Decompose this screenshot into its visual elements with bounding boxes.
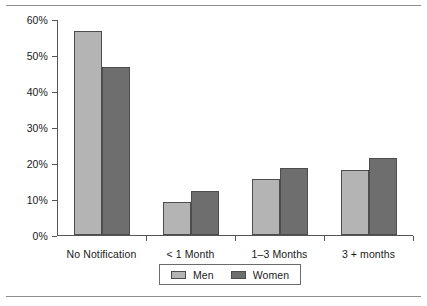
bar-men <box>341 170 369 235</box>
y-axis-tick-label: 40% <box>27 86 48 98</box>
bar-men <box>163 202 191 235</box>
bar-men <box>74 31 102 235</box>
y-axis-tick-label: 10% <box>27 194 48 206</box>
legend-item-women: Women <box>231 269 290 281</box>
x-axis-category-label: < 1 Month <box>167 248 215 260</box>
bar-chart-figure: 0%10%20%30%40%50%60% No Notification< 1 … <box>0 0 427 306</box>
y-axis-tick <box>52 164 57 165</box>
y-axis-tick <box>52 128 57 129</box>
y-axis-tick <box>52 92 57 93</box>
x-axis-tick <box>146 236 147 241</box>
y-axis-tick-label: 60% <box>27 14 48 26</box>
y-axis-tick-label: 30% <box>27 122 48 134</box>
x-axis-category-label: No Notification <box>67 248 137 260</box>
plot-area: 0%10%20%30%40%50%60% No Notification< 1 … <box>57 20 413 236</box>
legend-label-women: Women <box>253 269 290 281</box>
x-axis-tick <box>235 236 236 241</box>
chart-legend: Men Women <box>159 264 301 285</box>
x-axis-tick <box>324 236 325 241</box>
x-axis-category-label: 1–3 Months <box>252 248 308 260</box>
y-axis-tick <box>52 56 57 57</box>
bar-women <box>102 67 130 235</box>
bar-women <box>280 168 308 235</box>
y-axis-tick <box>52 236 57 237</box>
legend-item-men: Men <box>171 269 214 281</box>
y-axis-tick-label: 20% <box>27 158 48 170</box>
bar-men <box>252 179 280 235</box>
figure-bottom-rule <box>6 296 421 297</box>
bar-women <box>191 191 219 235</box>
y-axis-tick-label: 50% <box>27 50 48 62</box>
x-axis-tick <box>413 236 414 241</box>
legend-swatch-men-icon <box>171 271 186 279</box>
y-axis-tick <box>52 20 57 21</box>
bar-women <box>369 158 397 235</box>
legend-swatch-women-icon <box>231 271 246 279</box>
figure-top-rule <box>6 5 421 6</box>
x-axis-category-label: 3 + months <box>342 248 395 260</box>
y-axis-tick-label: 0% <box>33 230 48 242</box>
legend-label-men: Men <box>193 269 214 281</box>
y-axis-tick <box>52 200 57 201</box>
y-axis-line <box>57 20 58 236</box>
